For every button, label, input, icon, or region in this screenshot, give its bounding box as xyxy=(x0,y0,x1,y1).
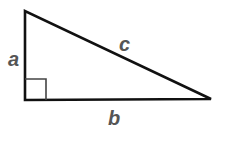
label-hypotenuse-c: c xyxy=(119,33,130,55)
right-angle-marker xyxy=(25,79,46,100)
label-side-a: a xyxy=(8,48,19,70)
label-side-b: b xyxy=(108,107,120,129)
triangle xyxy=(25,11,211,100)
right-triangle-diagram: a c b xyxy=(0,0,226,142)
